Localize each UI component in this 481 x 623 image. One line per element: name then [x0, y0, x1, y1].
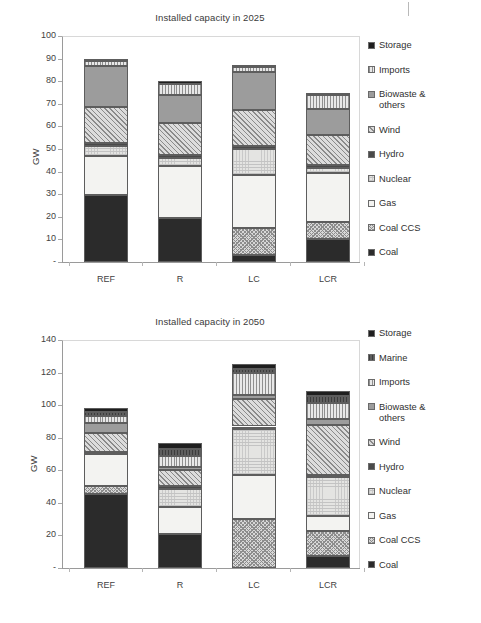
bar-segment-gas: [158, 166, 202, 218]
bar-segment-biowaste-others: [306, 109, 350, 135]
legend-item-gas[interactable]: Gas: [368, 198, 478, 209]
legend-item-hydro[interactable]: Hydro: [368, 149, 478, 160]
bar-segment-gas: [306, 173, 350, 222]
bar-segment-wind: [158, 470, 202, 486]
legend-item-imports[interactable]: Imports: [368, 65, 478, 76]
x-tick-mark: [290, 568, 291, 572]
legend-swatch-icon: [368, 439, 375, 446]
legend-label: Coal: [379, 247, 398, 258]
legend-item-hydro[interactable]: Hydro: [368, 462, 478, 473]
y-tick-mark: [58, 172, 62, 173]
bar-segment-hydro: [306, 165, 350, 168]
bar-segment-imports: [232, 67, 276, 72]
bar-segment-nuclear: [306, 168, 350, 173]
y-tick-label: 70: [26, 99, 56, 108]
x-tick-mark: [364, 568, 365, 572]
bar-segment-imports: [158, 456, 202, 467]
legend-item-wind[interactable]: Wind: [368, 437, 478, 448]
bar-segment-biowaste-others: [158, 95, 202, 123]
bar-segment-storage: [158, 443, 202, 449]
bar-segment-nuclear: [84, 146, 128, 156]
bar-lc: [232, 364, 276, 568]
legend-item-wind[interactable]: Wind: [368, 125, 478, 136]
bar-segment-biowaste-others: [232, 395, 276, 399]
y-tick-mark: [58, 194, 62, 195]
legend-label: Storage: [379, 328, 412, 339]
legend-swatch-icon: [368, 91, 375, 98]
x-tick-label-lcr: LCR: [294, 580, 362, 590]
y-tick-label: 140: [26, 335, 56, 344]
legend-item-gas[interactable]: Gas: [368, 511, 478, 522]
legend-swatch-icon: [368, 537, 375, 544]
x-tick-mark: [142, 568, 143, 572]
legend-item-marine[interactable]: Marine: [368, 353, 478, 364]
legend-swatch-icon: [368, 175, 375, 182]
bar-segment-coal-ccs: [232, 519, 276, 569]
bar-ref: [84, 59, 128, 262]
bar-lc: [232, 65, 276, 262]
legend-item-storage[interactable]: Storage: [368, 40, 478, 51]
legend-label: Storage: [379, 40, 412, 51]
legend-label: Coal CCS: [379, 223, 420, 234]
legend-label: Coal: [379, 560, 398, 571]
legend-swatch-icon: [368, 126, 375, 133]
bar-segment-coal: [158, 218, 202, 262]
legend-swatch-icon: [368, 200, 375, 207]
plot-area: -20406080100120140REFRLCLCR: [62, 340, 360, 568]
bar-segment-marine: [158, 449, 202, 456]
legend-label: Gas: [379, 198, 396, 209]
legend-item-storage[interactable]: Storage: [368, 328, 478, 339]
legend-swatch-icon: [368, 403, 375, 410]
bar-segment-imports: [158, 84, 202, 94]
legend-item-coal[interactable]: Coal: [368, 247, 478, 258]
bar-segment-marine: [84, 412, 128, 416]
y-tick-mark: [58, 217, 62, 218]
bar-segment-gas: [84, 156, 128, 195]
bar-segment-hydro: [158, 155, 202, 158]
bar-segment-wind: [306, 425, 350, 475]
x-tick-mark: [69, 262, 70, 266]
legend-label: Gas: [379, 511, 396, 522]
legend-item-coal-ccs[interactable]: Coal CCS: [368, 535, 478, 546]
bar-segment-coal: [84, 494, 128, 568]
bar-segment-imports: [306, 95, 350, 109]
bar-segment-storage: [306, 93, 350, 95]
x-tick-label-r: R: [146, 580, 214, 590]
bar-segment-biowaste-others: [158, 467, 202, 471]
legend-swatch-icon: [368, 151, 375, 158]
y-tick-label: 90: [26, 54, 56, 63]
legend-label: Wind: [379, 125, 400, 136]
legend-item-biowaste-others[interactable]: Biowaste & others: [368, 89, 478, 111]
bar-segment-marine: [232, 369, 276, 373]
bar-segment-hydro: [232, 146, 276, 149]
y-tick-mark: [58, 81, 62, 82]
y-tick-mark: [58, 340, 62, 341]
chart-title: Installed capacity in 2050: [0, 316, 420, 327]
y-tick-label: 100: [26, 400, 56, 409]
legend-swatch-icon: [368, 512, 375, 519]
legend-item-imports[interactable]: Imports: [368, 377, 478, 388]
bar-segment-nuclear: [158, 158, 202, 166]
y-tick-label: 40: [26, 167, 56, 176]
legend-item-coal[interactable]: Coal: [368, 560, 478, 571]
y-tick-mark: [58, 104, 62, 105]
bar-segment-gas: [232, 175, 276, 228]
y-tick-mark: [58, 503, 62, 504]
bar-segment-nuclear: [158, 489, 202, 508]
bar-segment-storage: [84, 408, 128, 412]
y-tick-label: 80: [26, 76, 56, 85]
legend-item-coal-ccs[interactable]: Coal CCS: [368, 223, 478, 234]
bar-lcr: [306, 93, 350, 262]
x-axis-line: [62, 568, 360, 569]
bar-segment-wind: [158, 123, 202, 156]
x-axis-line: [62, 262, 360, 263]
y-tick-mark: [58, 373, 62, 374]
bar-segment-nuclear: [306, 477, 350, 516]
legend-item-nuclear[interactable]: Nuclear: [368, 174, 478, 185]
legend-item-biowaste-others[interactable]: Biowaste & others: [368, 402, 478, 424]
y-tick-label: -: [26, 257, 56, 266]
bar-segment-biowaste-others: [84, 423, 128, 433]
legend-item-nuclear[interactable]: Nuclear: [368, 486, 478, 497]
bar-segment-coal: [84, 195, 128, 262]
x-tick-mark: [290, 262, 291, 266]
